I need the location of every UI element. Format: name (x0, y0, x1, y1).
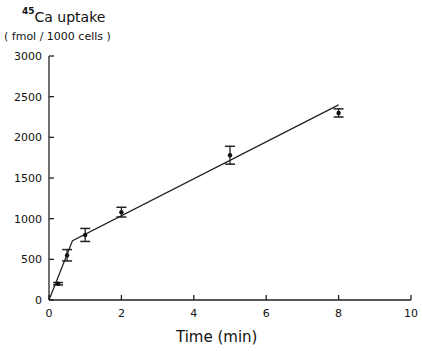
y-tick-label: 2500 (14, 91, 42, 104)
y-tick-label: 1500 (14, 172, 42, 185)
y-tick-label: 2000 (14, 131, 42, 144)
data-point (334, 109, 344, 117)
y-tick-label: 500 (21, 253, 42, 266)
y-tick-label: 1000 (14, 213, 42, 226)
data-point (53, 282, 63, 286)
x-tick-label: 6 (263, 307, 270, 320)
chart-canvas: 0246810050010001500200025003000 (0, 0, 422, 351)
marker (56, 282, 60, 286)
fit-polyline (49, 105, 339, 300)
data-point (80, 228, 90, 241)
data-point (62, 250, 72, 261)
fit-line (49, 105, 339, 300)
data-point (116, 207, 126, 217)
x-tick-label: 0 (46, 307, 53, 320)
y-tick-label: 0 (35, 294, 42, 307)
marker (119, 210, 123, 214)
x-tick-label: 4 (190, 307, 197, 320)
x-tick-label: 8 (335, 307, 342, 320)
x-tick-label: 2 (118, 307, 125, 320)
marker (83, 233, 87, 237)
data-points (53, 109, 344, 286)
marker (65, 253, 69, 257)
axes: 0246810050010001500200025003000 (14, 50, 418, 320)
x-tick-label: 10 (404, 307, 418, 320)
y-tick-label: 3000 (14, 50, 42, 63)
marker (228, 153, 232, 157)
marker (336, 111, 340, 115)
